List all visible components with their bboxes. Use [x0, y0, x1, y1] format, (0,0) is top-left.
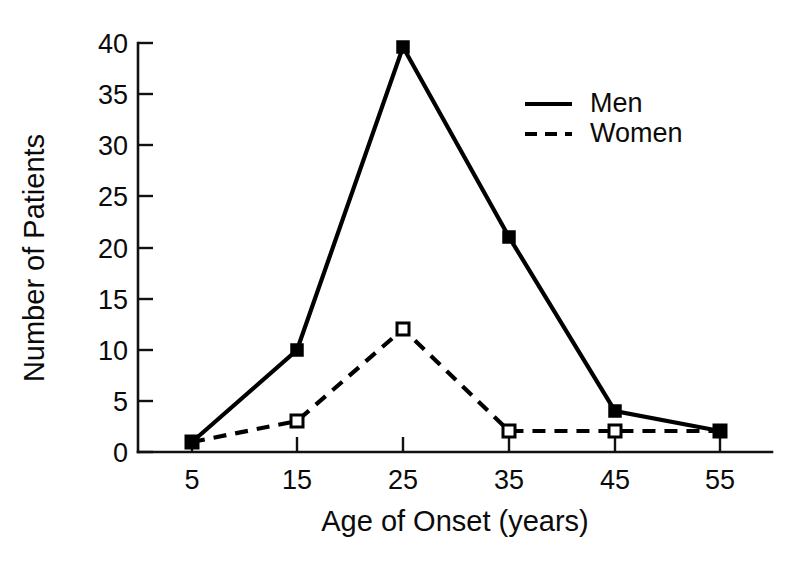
y-tick-label-35: 35 — [98, 80, 128, 110]
chart-figure: 40 35 30 25 20 15 10 5 0 5 15 25 35 45 5… — [0, 0, 802, 577]
x-tick-label-25: 25 — [388, 465, 418, 495]
x-tick-label-55: 55 — [705, 465, 735, 495]
men-point-5 — [186, 436, 198, 448]
women-point-45 — [609, 425, 621, 437]
legend-label-women: Women — [590, 118, 683, 148]
y-tick-label-5: 5 — [113, 387, 128, 417]
legend-label-men: Men — [590, 88, 643, 118]
y-tick-label-15: 15 — [98, 285, 128, 315]
men-point-55 — [714, 425, 726, 437]
y-axis-title: Number of Patients — [18, 134, 50, 382]
x-axis-title: Age of Onset (years) — [321, 505, 589, 537]
y-tick-label-40: 40 — [98, 29, 128, 59]
y-tick-label-25: 25 — [98, 182, 128, 212]
men-point-25 — [397, 41, 409, 53]
women-point-15 — [291, 415, 303, 427]
women-point-25 — [397, 323, 409, 335]
women-point-35 — [503, 425, 515, 437]
x-tick-label-45: 45 — [600, 465, 630, 495]
x-tick-label-15: 15 — [282, 465, 312, 495]
men-point-45 — [609, 405, 621, 417]
men-point-35 — [503, 231, 515, 243]
x-tick-label-35: 35 — [494, 465, 524, 495]
y-tick-label-30: 30 — [98, 131, 128, 161]
x-tick-label-5: 5 — [184, 465, 199, 495]
y-tick-label-20: 20 — [98, 234, 128, 264]
y-tick-label-0: 0 — [113, 438, 128, 468]
y-tick-label-10: 10 — [98, 336, 128, 366]
line-chart-canvas: 40 35 30 25 20 15 10 5 0 5 15 25 35 45 5… — [0, 0, 802, 577]
men-point-15 — [291, 344, 303, 356]
